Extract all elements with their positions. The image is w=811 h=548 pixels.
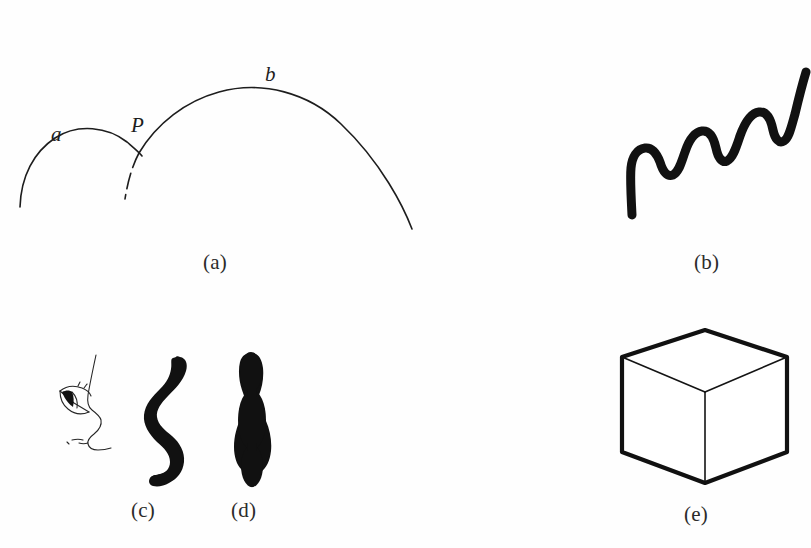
panel-caption-e: (e)	[684, 502, 708, 527]
panel-caption-d: (d)	[231, 498, 256, 523]
beaded-neck-lower	[247, 443, 257, 452]
arc-b-path	[139, 88, 412, 229]
face-outline-path	[88, 355, 111, 450]
figure-drawing-canvas	[0, 0, 811, 548]
eye-lash-1-path	[78, 382, 80, 386]
panel-c-group	[144, 356, 187, 486]
panel-d-group	[234, 352, 271, 487]
panel-caption-b: (b)	[694, 250, 719, 275]
panel-b-group	[631, 72, 806, 215]
nose-underside-path	[79, 443, 88, 444]
arc-b-broken-tail	[125, 153, 139, 199]
point-p-label: P	[131, 113, 144, 138]
lip-dash-path	[67, 442, 69, 444]
panel-caption-a: (a)	[203, 250, 227, 275]
panel-caption-c: (c)	[131, 498, 155, 523]
upper-lip-path	[72, 439, 83, 440]
arc-b-label: b	[265, 62, 276, 87]
panel-e-group	[622, 330, 787, 483]
face-profile-group	[60, 355, 111, 450]
panel-a-group	[20, 88, 412, 229]
beaded-middle-lobe	[238, 390, 266, 450]
arc-a-path	[20, 129, 142, 207]
zigzag-wave-path	[631, 72, 806, 215]
eye-lash-2-path	[84, 384, 87, 388]
arc-a-label: a	[51, 122, 62, 147]
figure-root: a P b (a) (b) (c) (d) (e)	[0, 0, 811, 548]
s-curve-weight-path	[144, 358, 184, 486]
beaded-top-lobe	[240, 352, 262, 392]
beaded-neck-upper	[247, 389, 257, 398]
